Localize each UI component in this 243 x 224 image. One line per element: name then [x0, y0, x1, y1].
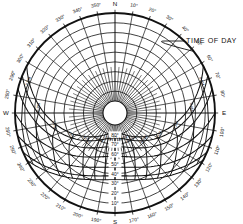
altitude-label-40: 40° — [111, 172, 118, 177]
hour-label-12: 12 — [113, 135, 117, 140]
altitude-label-30: 30° — [111, 181, 118, 186]
azimuth-tick-100 — [213, 130, 216, 131]
azimuth-label-90: E — [222, 109, 226, 116]
azimuth-tick-280 — [13, 95, 16, 96]
azimuth-tick-260 — [13, 130, 16, 131]
sun-path-chart-canvas: N10°20°30°40°50°60°70°80°E100°110°120°13… — [0, 0, 243, 224]
azimuth-tick-80 — [213, 95, 216, 96]
altitude-label-60: 60° — [111, 152, 118, 157]
azimuth-label-0: N — [113, 0, 117, 7]
altitude-label-10: 10° — [111, 201, 118, 206]
hour-label-6-PM: 6 PM — [35, 102, 41, 111]
altitude-label-50: 50° — [111, 162, 118, 167]
sun-path-diagram-figure: N10°20°30°40°50°60°70°80°E100°110°120°13… — [0, 0, 243, 224]
azimuth-tick-350 — [97, 11, 98, 14]
azimuth-label-270: W — [3, 109, 9, 116]
altitude-label-20: 20° — [111, 191, 118, 196]
altitude-label-70: 70° — [111, 142, 118, 147]
azimuth-tick-190 — [97, 211, 98, 214]
time-of-day-label: TIME OF DAY — [186, 36, 237, 45]
hour-label-6-AM: 6 AM — [189, 102, 195, 111]
azimuth-tick-10 — [132, 11, 133, 14]
azimuth-tick-170 — [132, 211, 133, 214]
azimuth-label-180: S — [113, 218, 117, 224]
